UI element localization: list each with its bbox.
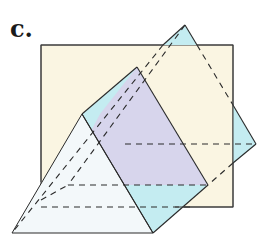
inclined-plane-top xyxy=(163,25,197,45)
inclined-plane-right xyxy=(233,105,256,163)
geometry-diagram xyxy=(0,0,267,250)
